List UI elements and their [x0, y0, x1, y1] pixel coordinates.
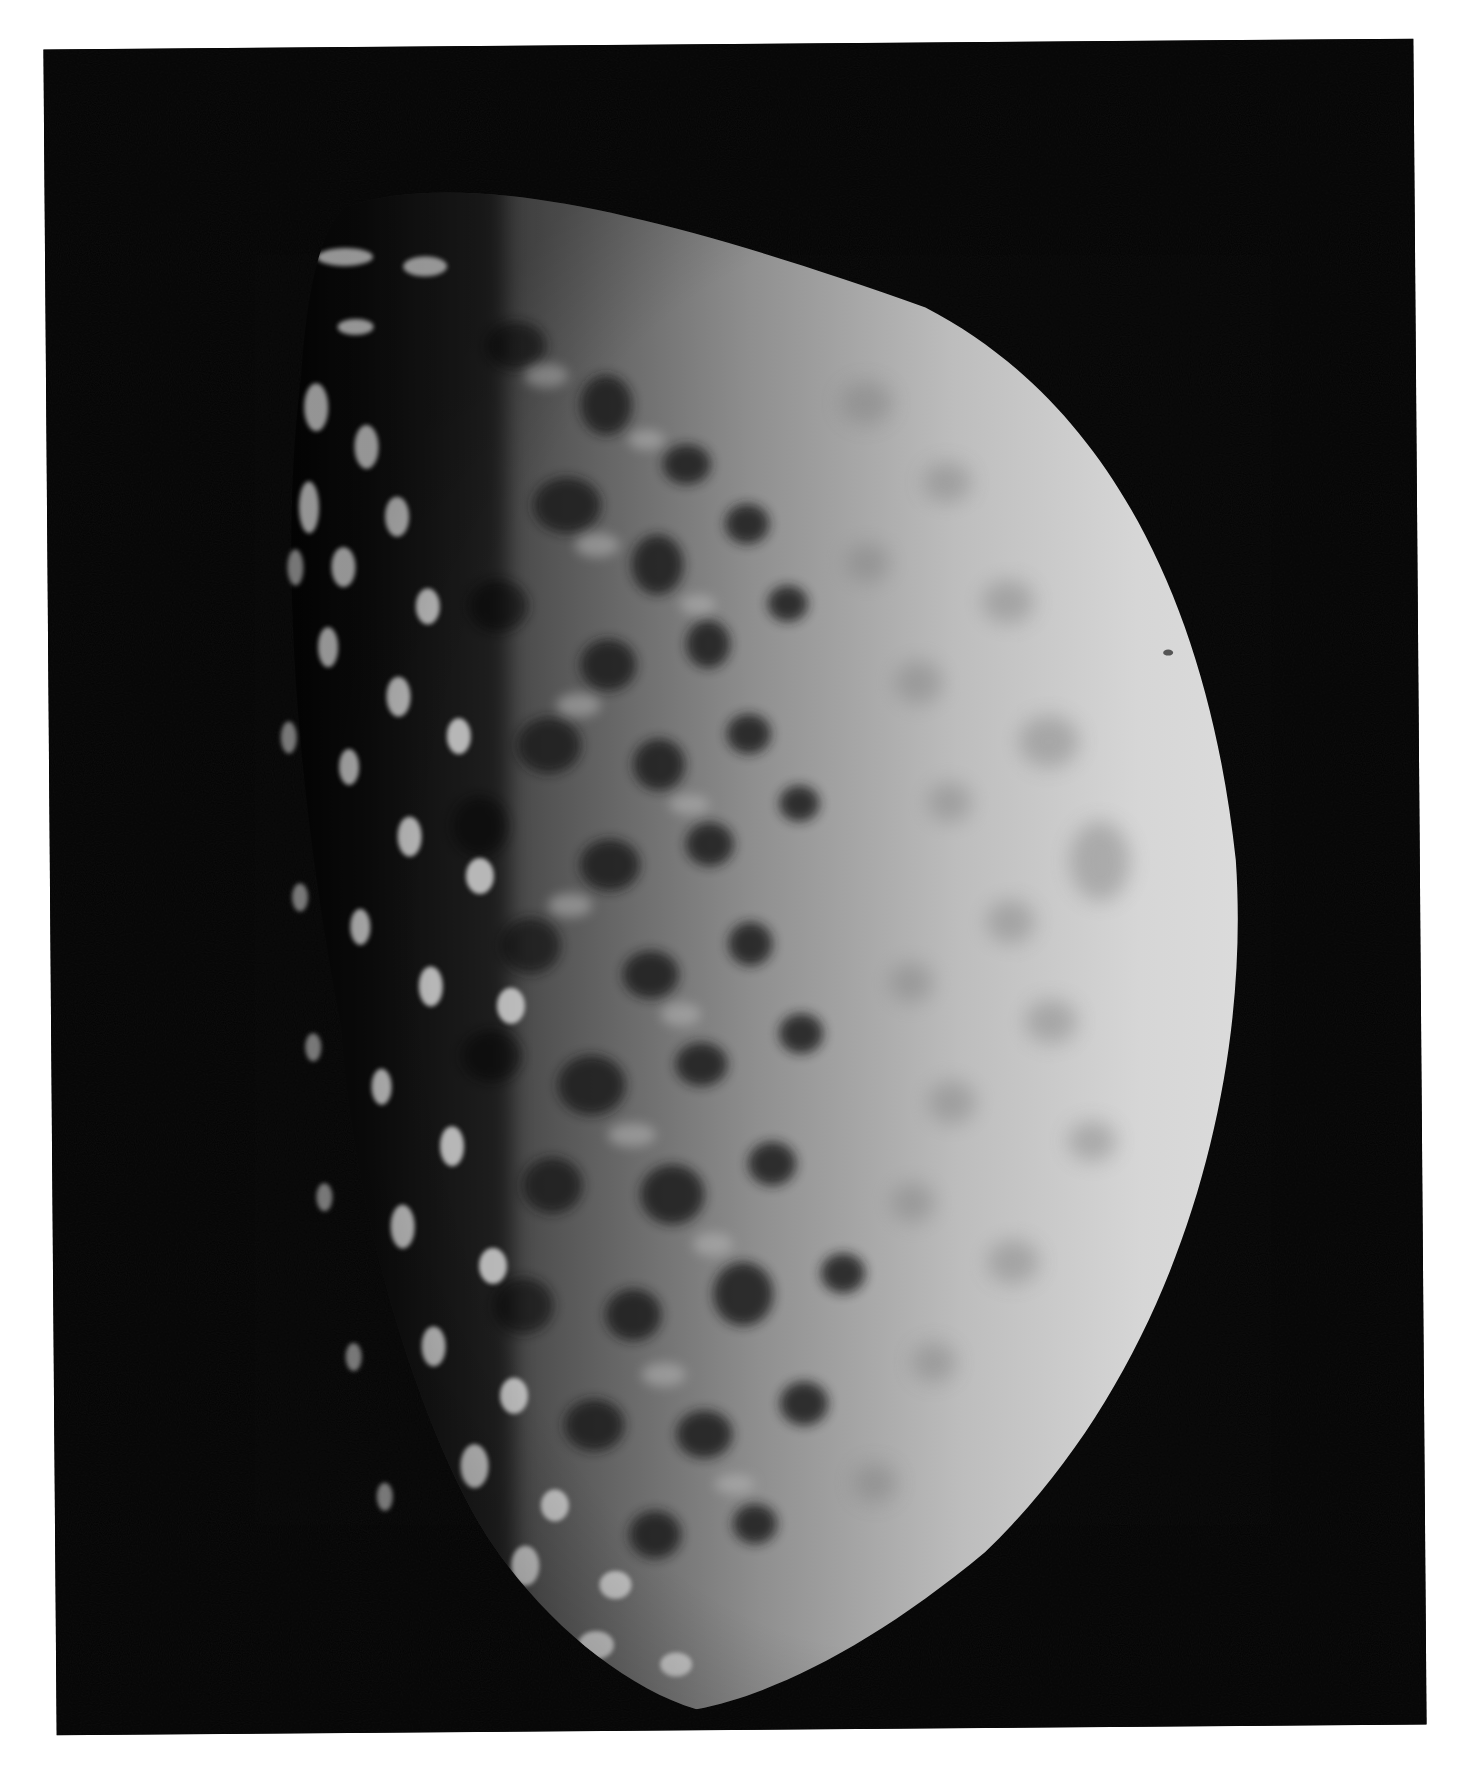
photograph: Black-and-white photograph of a heavily …: [43, 39, 1426, 1736]
moon-illustration: [43, 39, 1426, 1736]
